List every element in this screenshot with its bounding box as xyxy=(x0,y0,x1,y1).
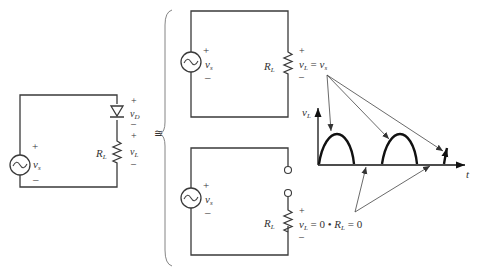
resistor-icon xyxy=(284,49,292,79)
diode-minus: – xyxy=(130,118,137,129)
top-source-minus: – xyxy=(204,71,211,83)
bottom-source-plus: + xyxy=(203,179,209,191)
top-load-minus: – xyxy=(298,71,305,82)
ac-source-icon xyxy=(10,155,30,175)
top-circuit: + vs – RL + vL = vs – xyxy=(181,11,327,117)
left-source-minus: – xyxy=(32,173,39,185)
resistor-icon xyxy=(284,207,292,232)
x-axis-label: t xyxy=(466,168,470,180)
top-source-label: vs xyxy=(205,58,213,72)
bottom-circuit: + vs – RL + vL = 0 • RL = 0 – xyxy=(181,148,363,255)
left-source-plus: + xyxy=(32,140,38,152)
half-wave-pulse-1 xyxy=(319,134,354,164)
callout-arrows-top xyxy=(327,75,443,151)
bottom-load-plus: + xyxy=(299,205,305,216)
open-switch-icon xyxy=(285,167,292,197)
bottom-load-minus: – xyxy=(298,231,305,242)
bottom-load-label: RL xyxy=(263,217,275,231)
diode-icon xyxy=(110,106,124,117)
diode-plus: + xyxy=(131,95,137,106)
top-source-plus: + xyxy=(203,44,209,56)
top-load-plus: + xyxy=(299,45,305,56)
top-load-label: RL xyxy=(263,60,275,74)
waveform-plot: vL t xyxy=(302,75,470,212)
resistor-icon xyxy=(113,138,121,178)
left-source-label: vs xyxy=(33,158,41,172)
ac-source-icon xyxy=(181,188,201,208)
load-minus: – xyxy=(130,158,137,169)
callout-arrows-bottom xyxy=(355,166,430,212)
half-wave-pulse-2 xyxy=(382,134,417,164)
diode-rectifier-diagram: + vs – + vD – RL + vL – ≅ + vs – RL + vL… xyxy=(0,0,478,270)
left-circuit: + vs – + vD – RL + vL – xyxy=(10,95,140,187)
bottom-source-label: vs xyxy=(205,193,213,207)
load-plus: + xyxy=(131,130,137,141)
bottom-equation: vL = 0 • RL = 0 xyxy=(299,218,363,232)
bottom-source-minus: – xyxy=(204,206,211,218)
half-wave-pulse-3 xyxy=(444,148,447,164)
left-load-label: RL xyxy=(95,147,107,161)
top-equation: vL = vs xyxy=(299,58,327,72)
y-axis-label: vL xyxy=(302,106,311,120)
ac-source-icon xyxy=(181,52,201,72)
